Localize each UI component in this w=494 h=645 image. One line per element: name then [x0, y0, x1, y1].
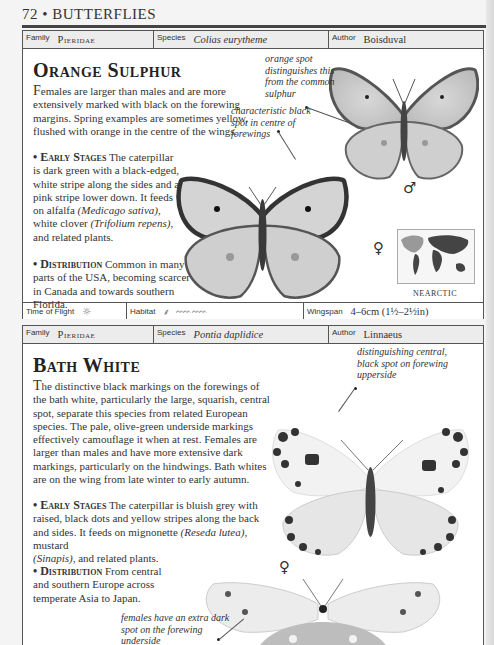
family-label: Family — [26, 33, 50, 42]
entry-bath-white: Family Pieridae Species Pontia daplidice… — [22, 325, 484, 645]
early-stages-text: • Early Stages The caterpillar is dark g… — [33, 151, 183, 244]
author-value: Boisduval — [364, 34, 407, 45]
species-label: Species — [157, 33, 185, 42]
annotation-black-spot: characteristic black spot in centre of f… — [231, 105, 321, 140]
female-butterfly-image — [175, 157, 350, 307]
distribution-heading: • Distribution — [33, 564, 102, 578]
section-title: BUTTERFLIES — [52, 6, 156, 22]
drop-cap: T — [33, 378, 42, 393]
info-bar: Family Pieridae Species Colias eurytheme… — [23, 31, 483, 49]
distribution-text: • Distribution Common in many parts of t… — [33, 258, 195, 311]
entry-title: Orange Sulphur — [33, 59, 181, 82]
page-edge-shadow — [486, 0, 494, 645]
entry-body: Bath White The distinctive black marking… — [23, 344, 483, 645]
family-value: Pieridae — [58, 34, 96, 45]
header-rule — [22, 25, 486, 28]
female-symbol: ♀ — [279, 558, 290, 576]
entry-title: Bath White — [33, 354, 140, 377]
leader-line — [338, 388, 355, 412]
info-bar: Family Pieridae Species Pontia daplidice… — [23, 326, 483, 344]
page-header: 72 • BUTTERFLIES — [22, 6, 156, 23]
early-stages-heading: • Early Stages — [33, 150, 106, 164]
author-cell: Author Linnaeus — [329, 326, 483, 343]
entry-body: Orange Sulphur Females are larger than m… — [23, 49, 483, 302]
species-cell: Species Colias eurytheme — [154, 31, 329, 48]
male-symbol: ♂ — [403, 179, 416, 197]
intro-text: Females are larger than males and are mo… — [33, 84, 255, 138]
world-map-icon — [398, 230, 474, 283]
female-symbol: ♀ — [373, 239, 384, 257]
wingspan-value: 4–6cm (1½–2½in) — [351, 306, 429, 317]
author-value: Linnaeus — [364, 329, 403, 340]
intro-text: The distinctive black markings on the fo… — [33, 379, 273, 486]
author-cell: Author Boisduval — [329, 31, 483, 48]
annotation-underside-spot: females have an extra dark spot on the f… — [121, 612, 231, 645]
early-stages-heading: • Early Stages — [33, 498, 106, 512]
entry-orange-sulphur: Family Pieridae Species Colias eurytheme… — [22, 30, 484, 319]
author-label: Author — [332, 328, 356, 337]
species-value: Colias eurytheme — [193, 34, 267, 45]
distribution-text: • Distribution From central and southern… — [33, 565, 175, 605]
header-bullet: • — [42, 6, 48, 22]
annotation-central-spot: distinguishing central, black spot on fo… — [357, 346, 452, 381]
map-region-label: NEARCTIC — [413, 289, 457, 298]
range-map — [397, 229, 475, 284]
distribution-heading: • Distribution — [33, 257, 102, 271]
underside-butterfly-image — [193, 574, 453, 645]
early-stages-text: • Early Stages The caterpillar is bluish… — [33, 499, 273, 565]
annotation-orange-spot: orange spot distinguishes this from the … — [265, 53, 335, 99]
species-value: Pontia daplidice — [193, 329, 263, 340]
family-cell: Family Pieridae — [23, 326, 154, 343]
species-cell: Species Pontia daplidice — [154, 326, 329, 343]
family-label: Family — [26, 328, 50, 337]
male-butterfly-image — [329, 61, 479, 191]
family-value: Pieridae — [58, 329, 96, 340]
species-label: Species — [157, 328, 185, 337]
family-cell: Family Pieridae — [23, 31, 154, 48]
female-upperside-butterfly-image — [263, 422, 478, 562]
author-label: Author — [332, 33, 356, 42]
page-number: 72 — [22, 6, 38, 22]
drop-cap: F — [33, 83, 41, 98]
wingspan-label: Wingspan — [307, 307, 343, 316]
